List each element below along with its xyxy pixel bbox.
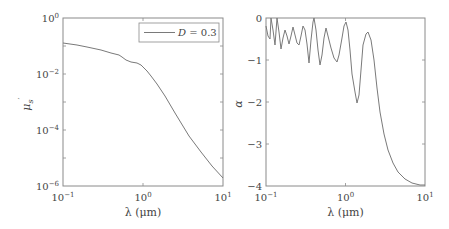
x-tick-label: 10−1 — [51, 191, 74, 203]
x-tick-label: 101 — [416, 191, 433, 203]
right-plot: 0 −1 −2 −3 −4 10−1 100 101 λ (μm) α — [232, 13, 434, 219]
x-tick-label: 101 — [214, 191, 231, 203]
x-tick-label: 10−1 — [254, 191, 277, 203]
y-tick-label: −3 — [247, 139, 262, 150]
y-tick-label: 100 — [42, 12, 59, 24]
left-plot-frame — [63, 18, 223, 186]
right-x-tick-labels: 10−1 100 101 — [254, 191, 433, 203]
left-plot: D = 0.3 100 10−2 10−4 10−6 10−1 100 101 … — [17, 12, 232, 219]
right-plot-curve — [266, 18, 425, 185]
right-x-axis-label: λ (μm) — [327, 206, 364, 219]
y-tick-label: 10−2 — [36, 68, 59, 80]
x-tick-label: 100 — [337, 191, 354, 203]
left-y-tick-labels: 100 10−2 10−4 10−6 — [36, 12, 60, 192]
y-tick-label: −2 — [247, 97, 262, 108]
y-tick-label: 10−6 — [36, 180, 60, 192]
y-tick-label: 0 — [256, 13, 262, 24]
left-plot-ticks — [63, 18, 223, 186]
right-y-tick-labels: 0 −1 −2 −3 −4 — [247, 13, 262, 192]
right-plot-frame — [266, 18, 425, 186]
legend-label: D = 0.3 — [177, 27, 217, 38]
legend: D = 0.3 — [139, 23, 219, 42]
figure: D = 0.3 100 10−2 10−4 10−6 10−1 100 101 … — [0, 0, 449, 229]
right-plot-ticks — [266, 18, 425, 186]
left-plot-curve — [63, 43, 223, 178]
y-tick-label: −4 — [247, 181, 262, 192]
left-y-axis-label: μs′ — [17, 97, 35, 110]
x-tick-label: 100 — [134, 191, 151, 203]
left-x-axis-label: λ (μm) — [125, 206, 162, 219]
y-tick-label: 10−4 — [36, 124, 60, 136]
right-y-axis-label: α — [232, 100, 245, 108]
left-x-tick-labels: 10−1 100 101 — [51, 191, 231, 203]
y-tick-label: −1 — [247, 55, 262, 66]
